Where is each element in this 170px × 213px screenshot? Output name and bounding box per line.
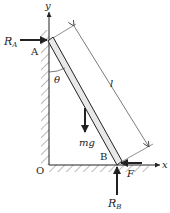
point-a-label: A: [30, 46, 39, 57]
length-label: l: [110, 78, 113, 89]
reaction-floor-label: RB: [107, 197, 121, 211]
x-axis-label: x: [162, 159, 168, 170]
weight-label: mg: [79, 137, 95, 148]
theta-arc: [49, 68, 65, 72]
theta-label: θ: [54, 74, 60, 85]
origin-label: O: [36, 165, 44, 176]
reaction-wall-label: RA: [3, 35, 17, 49]
ladder-diagram: y x O A B θ l mg RA RB F: [0, 0, 170, 213]
friction-label: F: [126, 168, 135, 179]
length-dimension: [53, 24, 153, 162]
y-axis-label: y: [44, 0, 51, 11]
point-b-label: B: [100, 151, 107, 162]
wall: [41, 30, 49, 165]
floor: [49, 165, 149, 172]
